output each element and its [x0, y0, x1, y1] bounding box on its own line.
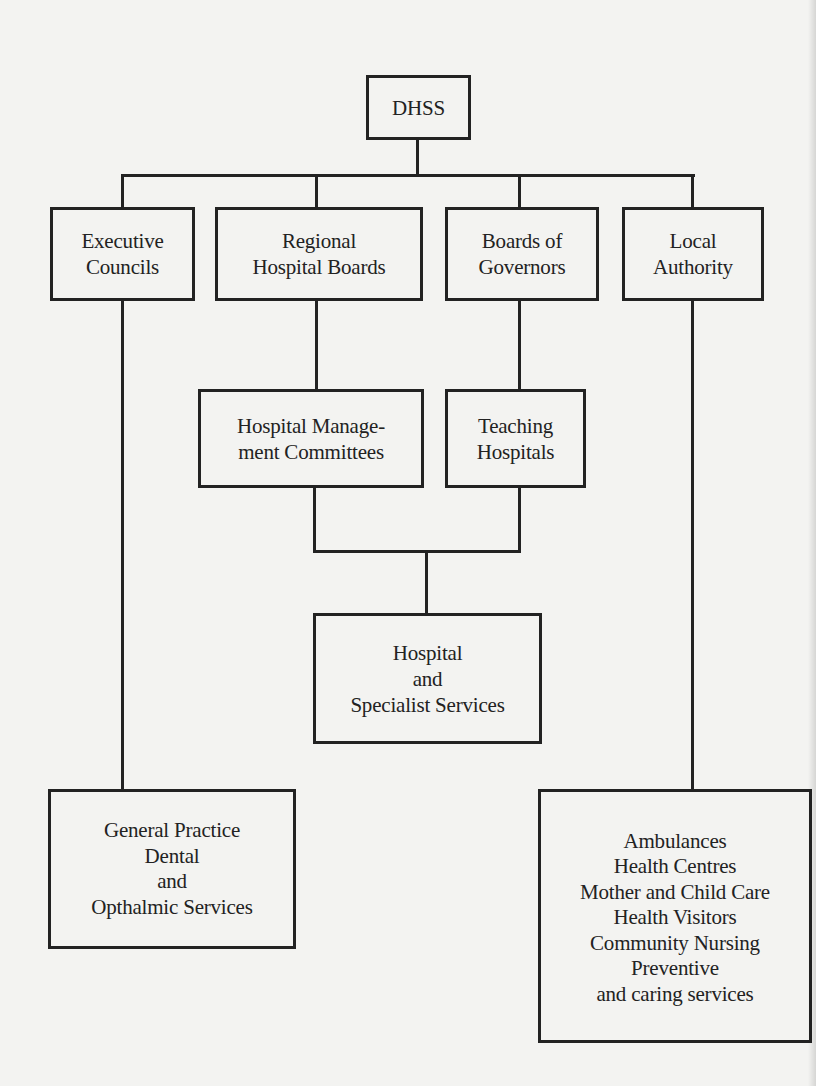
box-la-services-line-3: Mother and Child Care — [580, 880, 770, 906]
box-hmc-line-2: ment Committees — [238, 439, 384, 465]
connector-merge-to-hospital-services — [425, 550, 428, 615]
box-teaching-hospitals-line-1: Teaching — [478, 413, 553, 439]
connector-dhss-down — [416, 139, 419, 177]
box-dhss: DHSS — [366, 75, 471, 140]
connector-executive-to-general-practice — [121, 299, 124, 790]
box-hospital-specialist-services: Hospital and Specialist Services — [313, 613, 542, 744]
box-local-authority-line-1: Local — [670, 228, 717, 254]
box-la-services-line-7: and caring services — [596, 982, 753, 1008]
box-hospital-management-committees: Hospital Manage- ment Committees — [198, 389, 424, 488]
box-executive-councils-line-1: Executive — [81, 228, 163, 254]
box-la-services-line-4: Health Visitors — [613, 905, 736, 931]
box-local-authority-services: Ambulances Health Centres Mother and Chi… — [538, 789, 812, 1043]
connector-hmc-down — [313, 486, 316, 552]
box-general-practice-line-2: Dental — [145, 844, 200, 870]
connector-bog-to-teaching — [518, 299, 521, 391]
box-general-practice-services: General Practice Dental and Opthalmic Se… — [48, 789, 296, 949]
page-gutter-shadow — [808, 0, 816, 1086]
box-la-services-line-6: Preventive — [631, 956, 719, 982]
box-regional-hospital-boards: Regional Hospital Boards — [215, 207, 423, 301]
box-la-services-line-2: Health Centres — [614, 854, 737, 880]
connector-to-boards-of-governors — [518, 174, 521, 208]
box-boards-of-governors: Boards of Governors — [445, 207, 599, 301]
box-boards-of-governors-line-2: Governors — [479, 254, 566, 280]
box-local-authority-line-2: Authority — [653, 254, 733, 280]
connector-to-local-authority — [691, 174, 694, 208]
box-teaching-hospitals-line-2: Hospitals — [477, 439, 555, 465]
box-regional-hospital-boards-line-1: Regional — [282, 228, 356, 254]
box-regional-hospital-boards-line-2: Hospital Boards — [253, 254, 386, 280]
connector-merge-bar — [313, 550, 521, 553]
connector-teaching-down — [518, 486, 521, 552]
box-general-practice-line-4: Opthalmic Services — [91, 895, 252, 921]
box-hospital-services-line-3: Specialist Services — [350, 692, 504, 718]
connector-to-executive-councils — [121, 174, 124, 208]
connector-to-regional-hospital-boards — [315, 174, 318, 208]
box-la-services-line-5: Community Nursing — [590, 931, 760, 957]
connector-local-authority-to-services — [691, 299, 694, 791]
box-hospital-services-line-1: Hospital — [393, 640, 463, 666]
box-la-services-line-1: Ambulances — [624, 829, 727, 855]
box-general-practice-line-3: and — [157, 869, 187, 895]
box-teaching-hospitals: Teaching Hospitals — [445, 389, 586, 488]
box-hmc-line-1: Hospital Manage- — [237, 413, 385, 439]
box-executive-councils-line-2: Councils — [86, 254, 159, 280]
box-dhss-label: DHSS — [392, 95, 445, 121]
box-general-practice-line-1: General Practice — [104, 818, 240, 844]
box-boards-of-governors-line-1: Boards of — [482, 228, 562, 254]
box-hospital-services-line-2: and — [413, 666, 443, 692]
box-executive-councils: Executive Councils — [50, 207, 195, 301]
connector-rhb-to-hmc — [315, 299, 318, 391]
connector-main-bar — [121, 174, 695, 177]
box-local-authority: Local Authority — [622, 207, 764, 301]
